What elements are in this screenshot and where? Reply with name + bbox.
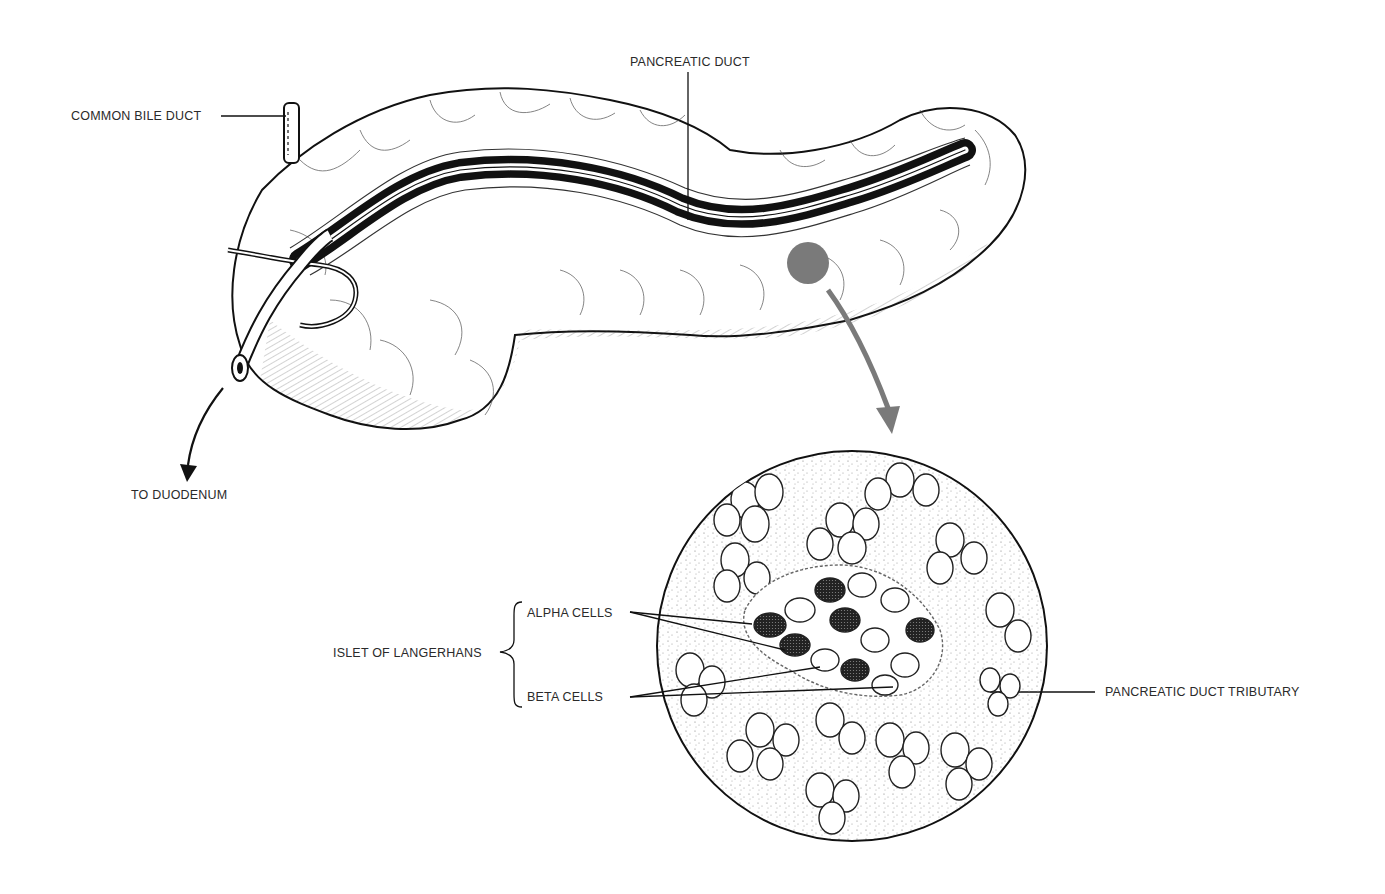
label-beta-cells: BETA CELLS xyxy=(527,691,603,704)
islet-location-marker xyxy=(787,242,829,284)
label-common-bile-duct: COMMON BILE DUCT xyxy=(71,110,201,123)
label-pancreatic-duct: PANCREATIC DUCT xyxy=(630,56,750,69)
pancreas-diagram xyxy=(0,0,1385,894)
label-to-duodenum: TO DUODENUM xyxy=(131,489,227,502)
islet-brace xyxy=(500,602,522,707)
label-pancreatic-duct-tributary: PANCREATIC DUCT TRIBUTARY xyxy=(1105,686,1300,699)
pancreas-organ xyxy=(228,88,1025,429)
magnified-islet-view xyxy=(630,451,1047,841)
label-alpha-cells: ALPHA CELLS xyxy=(527,607,613,620)
label-islet-of-langerhans: ISLET OF LANGERHANS xyxy=(333,647,482,660)
common-bile-duct-tube xyxy=(284,103,299,163)
duodenum-arrow xyxy=(180,388,223,482)
